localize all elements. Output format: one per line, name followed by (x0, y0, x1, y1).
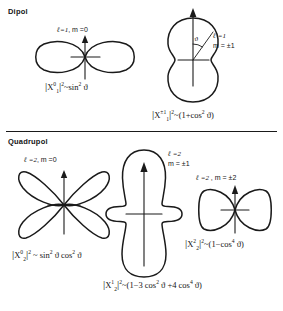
expression-d1: sin (69, 82, 79, 92)
tilde-q1: ~ (33, 250, 38, 260)
superscript-q3: 2 (193, 238, 196, 244)
superscript-q2: 1 (111, 279, 114, 285)
exp-b-q2: 4 (190, 279, 193, 285)
expr-open-q3: (1−cos (209, 239, 232, 249)
angle-d1: ϑ (83, 82, 87, 92)
arrowhead-dipole-m0 (82, 35, 88, 43)
exponent-d1: 2 (78, 81, 81, 87)
exp-b-q1: 2 (72, 249, 75, 255)
m-value-dipole-m0: m =0 (72, 26, 88, 33)
lobe-lower-left-quad-m0 (19, 204, 64, 238)
angle-label-dipole-m1: ϑ (195, 35, 199, 43)
superscript-d1: 0 (53, 81, 56, 87)
arrowhead-dipole-m1 (190, 8, 197, 17)
m-value-quad-m2: m = ±2 (215, 174, 237, 181)
arrowhead-quad-m2 (232, 185, 238, 194)
expr-close-d2: ) (211, 110, 214, 120)
expr-mid-q2: +4 cos (167, 280, 190, 290)
formula-quad-m0: |X02|2 ~ sin2 ϑ cos2 ϑ (12, 247, 81, 264)
exponent-q3: 4 (232, 238, 235, 244)
expr-b-q1: cos (61, 250, 72, 260)
formula-quad-m1: |X12|2~(1−3 cos2 ϑ +4 cos4 ϑ) (103, 277, 202, 294)
expr-close-q2: ) (199, 280, 202, 290)
angle-a-q2: ϑ (161, 280, 165, 290)
arrowhead-quad-m1 (140, 162, 147, 172)
superscript-d2: ±1 (160, 109, 166, 115)
expr-a-q1: sin (40, 250, 50, 260)
superscript-q1: 0 (20, 249, 23, 255)
lobe-lower-right-quad-m0 (64, 204, 109, 238)
formula-dipole-m0: |X01|2~sin2 ϑ (45, 79, 88, 96)
plot-dipole-m1: ϑ (153, 8, 233, 108)
lobe-upper-left-quad-m0 (19, 172, 64, 206)
exp-a-q2: 2 (156, 279, 159, 285)
plot-quad-m0 (14, 162, 114, 248)
exponent-d2: 2 (202, 109, 205, 115)
quantum-label-quad-m2: ℓ =2 , m = ±2 (196, 173, 236, 183)
section-heading-quadrupole: Quadrupol (8, 137, 48, 146)
exp-a-q1: 2 (50, 249, 53, 255)
multipole-radiation-figure: Dipol ℓ=1, m =0 |X01|2~sin2 ϑ ℓ =1 m = ±… (0, 0, 283, 311)
formula-quad-m2: |X22|2~(1−cos4 ϑ) (185, 236, 244, 253)
section-heading-dipole: Dipol (8, 7, 28, 16)
plot-dipole-m0 (30, 33, 140, 81)
power-q1: 2 (28, 249, 31, 255)
expr-open-d2: (1+cos (179, 110, 202, 120)
section-divider (6, 131, 277, 132)
arrowhead-quad-m0 (61, 170, 67, 178)
ell-value-quad-m2: ℓ =2 (196, 174, 209, 182)
angle-arc-dipole-m1 (193, 44, 202, 47)
expr-open-q2: (1−3 cos (127, 280, 157, 290)
formula-dipole-m1: |X±11|2~(1+cos2 ϑ) (152, 107, 214, 124)
label-separator-quad-m2: , (211, 174, 213, 181)
angle-a-q1: ϑ (55, 250, 59, 260)
angle-b-q1: ϑ (77, 250, 81, 260)
plot-quad-m2 (196, 183, 274, 237)
plot-quad-m1 (104, 146, 184, 280)
expr-close-q3: ) (241, 239, 244, 249)
label-separator-dipole-m0: , (68, 26, 70, 33)
lobe-upper-right-quad-m0 (64, 172, 109, 206)
